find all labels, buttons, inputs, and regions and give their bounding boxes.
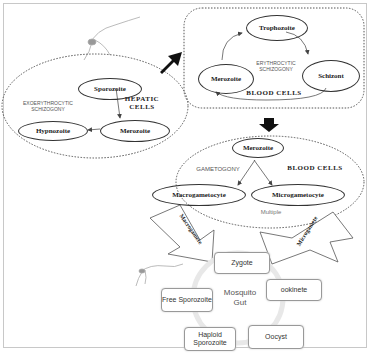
- hepatic-title: HEPATICCELLS: [122, 96, 162, 111]
- mosquito-gut-label: MosquitoGut: [220, 288, 260, 307]
- node-hypnozoite: Hypnozoite: [18, 121, 88, 141]
- ery-label-line2: SCHIZOGONY: [259, 66, 293, 72]
- mosquito-icon-bottom: [136, 264, 183, 286]
- node-schizont: Schizont: [302, 60, 360, 92]
- box-free-sporozoite: Free Sporozoite: [161, 288, 213, 312]
- node-merozoite-gametogony: Merozoite: [232, 138, 284, 158]
- multiple-note: Multiple: [254, 209, 288, 216]
- box-zygote: Zygote: [214, 252, 270, 274]
- box-haploid-sporozoite: Haploid Sporozoite: [184, 327, 236, 351]
- exo-label-line2: SCHIZOGONY: [31, 106, 65, 112]
- gametogony-title: BLOOD CELLS: [282, 164, 348, 172]
- node-microgametocyte: Microgametocyte: [251, 184, 345, 206]
- erythrocytic-label: ERYTHROCYTICSCHIZOGONY: [250, 60, 302, 72]
- box-oocyst: Oocyst: [248, 325, 304, 349]
- box-ookinete: ookinete: [266, 279, 322, 301]
- hepatic-title-line2: CELLS: [129, 103, 154, 111]
- node-trophozoite: Trophozoite: [246, 15, 308, 41]
- gut-label-line1: Mosquito: [224, 288, 256, 297]
- node-macrogametocyte: Macrogametocyte: [152, 184, 246, 206]
- gametogony-label: GAMETOGONY: [196, 166, 240, 173]
- erythrocytic-title: BLOOD CELLS: [244, 89, 304, 97]
- gut-label-line2: Gut: [234, 298, 247, 307]
- node-merozoite-hepatic: Merozoite: [100, 120, 170, 142]
- exoerythrocytic-label: EXOERYTHROCYTICSCHIZOGONY: [18, 100, 78, 112]
